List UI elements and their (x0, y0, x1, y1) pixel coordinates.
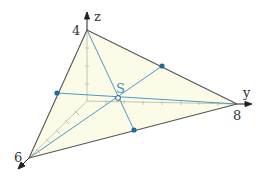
centroid-diagram: z 4 y 8 6 S (0, 0, 262, 178)
centroid-point (116, 96, 121, 101)
midpoint-ab (159, 63, 164, 68)
z-axis-label: z (94, 9, 101, 24)
centroid-label: S (116, 81, 125, 96)
midpoint-bc (131, 127, 136, 132)
y-arrow-icon (245, 102, 252, 107)
x-tick-label: 6 (14, 150, 22, 165)
y-tick-label: 8 (233, 108, 241, 123)
y-axis-label: y (242, 85, 251, 100)
triangle-face (29, 30, 237, 158)
z-tick-label: 4 (72, 23, 80, 38)
z-arrow-icon (85, 12, 90, 19)
midpoint-ac (54, 90, 59, 95)
